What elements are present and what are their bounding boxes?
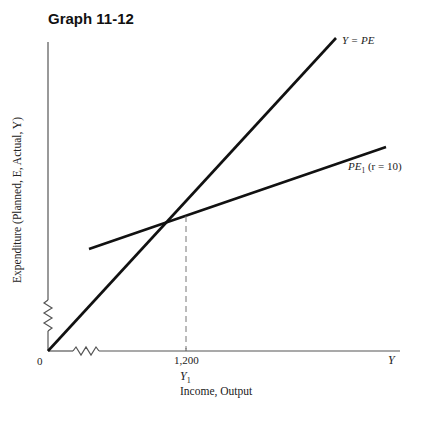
line45-label: Y = PE <box>342 34 375 46</box>
origin-label: 0 <box>37 355 43 367</box>
line-pe1 <box>89 147 386 249</box>
y-axis <box>44 42 52 351</box>
x-axis <box>48 347 400 355</box>
x-tick-label: 1,200 <box>174 354 199 366</box>
line-y-equals-pe <box>48 38 336 351</box>
chart: 0 Y 1,200 Y1 Income, Output Expenditure … <box>0 0 428 421</box>
x-axis-end-label: Y <box>388 353 396 367</box>
pe1-label: PE1 (r = 10) <box>347 160 402 175</box>
x-axis-title: Income, Output <box>180 385 253 398</box>
x-tick-sublabel: Y1 <box>180 369 191 385</box>
y-axis-title: Expenditure (Planned, E, Actual, Y) <box>11 117 24 283</box>
